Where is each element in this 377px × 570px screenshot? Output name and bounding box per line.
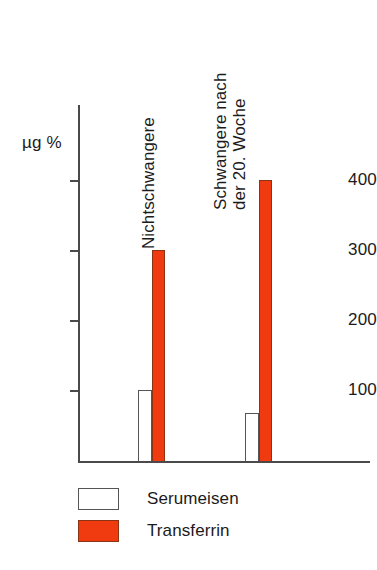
legend-label-transferrin: Transferrin	[147, 521, 230, 541]
bar-transferrin-schwangere	[259, 180, 272, 461]
category-label-nichtschwangere: Nichtschwangere	[139, 117, 158, 249]
legend-label-serumeisen: Serumeisen	[147, 489, 239, 509]
bar-group-schwangere	[245, 105, 273, 461]
category-label-schwangere-line1: Schwangere nach	[211, 72, 230, 210]
white-box-swatch-icon	[78, 488, 119, 510]
bar-chart: µg % 400 300 200 100 Nichtschwangere Sch…	[0, 0, 377, 570]
legend: Serumeisen Transferrin	[78, 483, 239, 547]
orange-box-swatch-icon	[78, 520, 119, 542]
y-axis-unit-label: µg %	[22, 133, 62, 153]
legend-item-serumeisen: Serumeisen	[78, 483, 239, 515]
category-label-nichtschwangere-line1: Nichtschwangere	[139, 117, 158, 249]
category-label-schwangere: Schwangere nach der 20. Woche	[211, 72, 249, 210]
bar-serumeisen-nichtschwangere	[138, 390, 152, 461]
bar-transferrin-nichtschwangere	[152, 250, 165, 461]
legend-item-transferrin: Transferrin	[78, 515, 239, 547]
x-axis-line	[78, 461, 370, 463]
bar-serumeisen-schwangere	[245, 413, 259, 461]
category-label-schwangere-line2: der 20. Woche	[230, 72, 249, 210]
